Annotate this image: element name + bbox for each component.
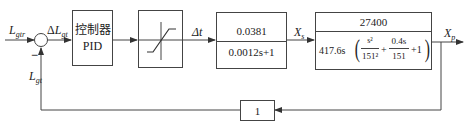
saturation-block (138, 10, 183, 68)
controller-label: 控制器 (73, 22, 112, 38)
feedback-signal-label: Lgt (29, 70, 42, 85)
pid-controller-block: 控制器 PID (72, 10, 113, 66)
actuator-denominator: 0.0012s+1 (217, 46, 286, 58)
plant-denominator: 417.6s ( s² 151² + 0.4s 151 +1 ) (319, 35, 431, 67)
pid-label: PID (73, 38, 112, 54)
minus-sign: − (31, 48, 38, 62)
fraction-bar (316, 31, 431, 32)
actuator-numerator: 0.0381 (217, 25, 286, 37)
feedback-gain-value: 1 (241, 105, 274, 117)
input-signal-label: Lgtr (9, 24, 25, 39)
fraction-bar (217, 41, 286, 42)
summing-junction (35, 34, 48, 47)
delta-t-label: Δt (192, 26, 202, 38)
actuator-transfer-block: 0.0381 0.0012s+1 (216, 12, 287, 69)
plant-transfer-block: 27400 417.6s ( s² 151² + 0.4s 151 +1 ) (315, 12, 432, 70)
right-paren: ) (425, 35, 430, 63)
error-signal-label: ΔLgt (47, 24, 68, 39)
xs-signal-label: Xs (294, 26, 304, 41)
plant-numerator: 27400 (316, 16, 431, 28)
feedback-gain-block: 1 (240, 100, 275, 121)
xp-signal-label: Xp (444, 27, 455, 42)
saturation-curve-icon (138, 10, 183, 68)
left-paren: ( (355, 35, 360, 63)
